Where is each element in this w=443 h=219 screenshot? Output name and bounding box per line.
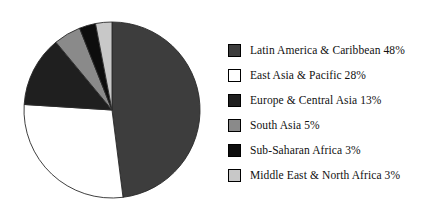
legend-swatch-icon — [228, 44, 241, 57]
legend-item: Latin America & Caribbean 48% — [228, 38, 443, 63]
legend-swatch-icon — [228, 144, 241, 157]
pie-chart — [0, 0, 225, 219]
chart-legend: Latin America & Caribbean 48%East Asia &… — [228, 38, 443, 188]
legend-swatch-icon — [228, 94, 241, 107]
pie-chart-figure: Latin America & Caribbean 48%East Asia &… — [0, 0, 443, 219]
legend-swatch-icon — [228, 69, 241, 82]
legend-item-label: South Asia 5% — [250, 119, 320, 132]
legend-item-label: Latin America & Caribbean 48% — [250, 44, 405, 57]
legend-item: Middle East & North Africa 3% — [228, 163, 443, 188]
legend-item-label: Sub-Saharan Africa 3% — [250, 144, 361, 157]
legend-item: East Asia & Pacific 28% — [228, 63, 443, 88]
legend-item-label: Middle East & North Africa 3% — [250, 169, 400, 182]
legend-item-label: Europe & Central Asia 13% — [250, 94, 382, 107]
pie-slice — [112, 22, 200, 197]
legend-item: Sub-Saharan Africa 3% — [228, 138, 443, 163]
legend-item: South Asia 5% — [228, 113, 443, 138]
pie-slice — [24, 104, 123, 198]
legend-swatch-icon — [228, 169, 241, 182]
legend-swatch-icon — [228, 119, 241, 132]
pie-slice-group — [24, 22, 200, 198]
legend-item-label: East Asia & Pacific 28% — [250, 69, 366, 82]
legend-item: Europe & Central Asia 13% — [228, 88, 443, 113]
